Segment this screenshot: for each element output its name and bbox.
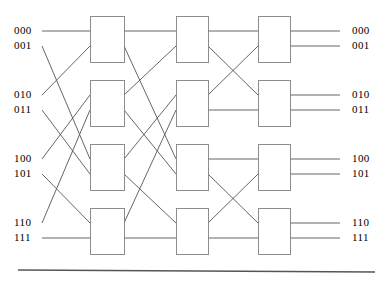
switch-1-2 (90, 80, 124, 126)
network-diagram-svg (0, 0, 383, 281)
left-terminal-label-110: 110 (14, 217, 31, 228)
switch-3-2 (258, 80, 290, 126)
left-terminal-label-100: 100 (14, 153, 32, 164)
stage1-stage2-link-2 (124, 46, 176, 95)
bottom-rule-layer (18, 270, 375, 272)
switch-3-4 (258, 208, 290, 254)
right-terminal-label-100: 100 (352, 153, 370, 164)
left-terminal-label-001: 001 (14, 40, 32, 51)
left-terminal-label-010: 010 (14, 89, 32, 100)
switch-1-3 (90, 144, 124, 190)
switch-2-3 (176, 144, 208, 190)
right-terminal-label-101: 101 (352, 168, 370, 179)
switch-boxes-layer (90, 16, 290, 254)
bottom-rule (18, 270, 375, 272)
switch-1-4 (90, 208, 124, 254)
right-terminal-label-110: 110 (352, 217, 369, 228)
switch-3-1 (258, 16, 290, 62)
input-link-5 (42, 174, 90, 223)
switch-3-3 (258, 144, 290, 190)
right-terminal-label-111: 111 (352, 232, 369, 243)
right-terminal-label-001: 001 (352, 40, 370, 51)
butterfly-network-figure: 0000010100111001011101110000010100111001… (0, 0, 383, 281)
right-terminal-label-010: 010 (352, 89, 370, 100)
switch-2-2 (176, 80, 208, 126)
switch-1-1 (90, 16, 124, 62)
switch-2-4 (176, 208, 208, 254)
left-terminal-label-000: 000 (14, 25, 32, 36)
left-terminal-label-101: 101 (14, 168, 32, 179)
left-terminal-label-111: 111 (14, 232, 31, 243)
input-link-2 (42, 46, 90, 95)
right-terminal-label-000: 000 (352, 25, 370, 36)
stage1-stage2-link-5 (124, 174, 176, 223)
left-terminal-label-011: 011 (14, 104, 31, 115)
right-terminal-label-011: 011 (352, 104, 369, 115)
switch-2-1 (176, 16, 208, 62)
